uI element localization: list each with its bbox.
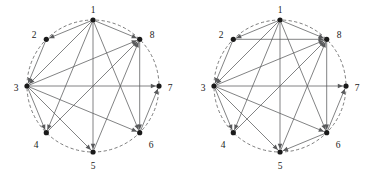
edge-1-to-4 (234, 22, 279, 130)
node-3 (24, 83, 29, 88)
node-5 (277, 149, 282, 154)
left-graph-canvas: 12345678 (0, 0, 187, 175)
node-6 (137, 130, 142, 135)
node-label-6: 6 (149, 140, 154, 150)
node-4 (44, 130, 49, 135)
edge-5-to-8 (94, 42, 139, 150)
node-1 (277, 17, 282, 22)
node-label-7: 7 (168, 83, 173, 93)
edge-3-to-8 (216, 40, 324, 85)
node-label-1: 1 (91, 5, 96, 15)
node-3 (211, 83, 216, 88)
edge-1-to-3 (216, 22, 278, 84)
edge-1-to-8 (282, 21, 324, 38)
edge-3-to-4 (28, 88, 45, 130)
node-label-4: 4 (34, 140, 39, 150)
node-label-8: 8 (150, 30, 155, 40)
node-4 (231, 130, 236, 135)
edge-6-to-5 (283, 134, 325, 151)
node-1 (90, 17, 95, 22)
node-label-5: 5 (278, 161, 283, 171)
edge-1-to-4 (47, 22, 92, 130)
left-graph-panel: 12345678 (0, 0, 187, 175)
edge-5-to-8 (281, 42, 326, 150)
node-label-2: 2 (32, 30, 37, 40)
edge-1-to-2 (49, 21, 91, 38)
node-label-7: 7 (355, 83, 360, 93)
two-graph-figure: 12345678 12345678 (0, 0, 374, 175)
node-label-1: 1 (278, 5, 283, 15)
edge-3-to-6 (29, 87, 137, 132)
right-graph-panel: 12345678 (187, 0, 374, 175)
node-2 (44, 37, 49, 42)
node-7 (156, 83, 161, 88)
edge-3-to-8 (29, 40, 137, 85)
node-8 (137, 37, 142, 42)
edge-2-to-3 (28, 42, 45, 84)
node-label-4: 4 (221, 140, 226, 150)
node-7 (343, 83, 348, 88)
node-5 (90, 149, 95, 154)
edge-1-to-6 (94, 22, 139, 130)
edge-1-to-8 (95, 21, 137, 38)
node-label-3: 3 (201, 83, 206, 93)
node-6 (324, 130, 329, 135)
edge-2-to-3 (215, 42, 232, 84)
node-label-8: 8 (337, 30, 342, 40)
edge-6-to-7 (141, 89, 158, 131)
edge-1-to-3 (29, 22, 91, 84)
right-graph-canvas: 12345678 (187, 0, 374, 175)
node-label-2: 2 (219, 30, 224, 40)
node-2 (231, 37, 236, 42)
node-label-3: 3 (14, 83, 19, 93)
edge-1-to-2 (236, 21, 278, 38)
arrowhead-3-to-7 (338, 84, 343, 89)
edge-3-to-4 (215, 88, 232, 130)
node-label-5: 5 (91, 161, 96, 171)
node-8 (324, 37, 329, 42)
edge-6-to-7 (328, 89, 345, 131)
node-label-6: 6 (336, 140, 341, 150)
arrowhead-3-to-7 (151, 84, 156, 89)
edge-3-to-6 (216, 87, 324, 132)
